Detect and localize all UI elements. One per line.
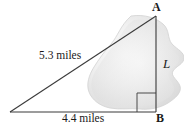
hypotenuse-length-label: 5.3 miles bbox=[39, 50, 81, 62]
vertex-label-b: B bbox=[156, 112, 164, 124]
geometry-figure: A B 5.3 miles 4.4 miles L bbox=[0, 0, 184, 130]
base-length-label: 4.4 miles bbox=[62, 113, 104, 125]
vertical-leg-label: L bbox=[163, 57, 170, 70]
vertex-label-a: A bbox=[152, 1, 161, 13]
